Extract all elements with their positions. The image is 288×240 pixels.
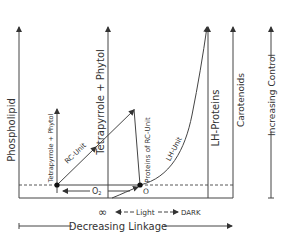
light-label: Light xyxy=(136,208,155,217)
lh-proteins-label: LH-Proteins xyxy=(210,90,221,147)
infinity-label: ∞ xyxy=(98,206,107,219)
linkage-diagram: Phospholipid Tetrapyrrole + Phytol Tetra… xyxy=(0,0,288,240)
dark-label: DARK xyxy=(181,209,201,217)
phospholipid-label: Phospholipid xyxy=(6,98,17,162)
origin-label: O xyxy=(143,187,149,196)
increasing-control-label: Increasing Control xyxy=(267,54,277,136)
tetrapyrrole-phytol-small-label: Tetrapyrrole + Phytol xyxy=(47,113,55,183)
o2-label: O2 xyxy=(92,187,101,196)
tetrapyrrole-phytol-large-label: Tetrapyrrole + Phytol xyxy=(95,49,106,156)
carotenoids-label: Carotenoids xyxy=(236,73,246,127)
tetrapyrrole-node xyxy=(54,182,59,187)
proteins-rc-unit-label: Proteins of RC-Unit xyxy=(144,117,152,183)
rc-unit-label: RC-Unit xyxy=(63,141,88,165)
decreasing-linkage-label: Decreasing Linkage xyxy=(69,221,167,232)
rc-unit-node xyxy=(137,182,142,187)
